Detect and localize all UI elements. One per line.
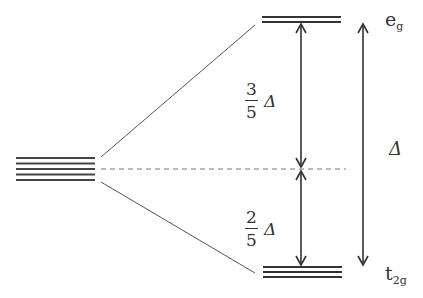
upper-gap-label: 3 5 Δ xyxy=(245,80,276,121)
lower-gap-label: 2 5 Δ xyxy=(245,208,276,249)
splitting-diagram xyxy=(0,0,423,298)
upper-gap-numerator: 3 xyxy=(246,80,257,98)
upper-gap-denominator: 5 xyxy=(246,103,257,121)
t2g-label-main: t xyxy=(385,262,393,284)
lower-gap-symbol: Δ xyxy=(264,219,276,239)
connector-lower xyxy=(101,182,255,273)
t2g-levels xyxy=(263,267,342,277)
eg-label: eg xyxy=(385,8,403,33)
connector-upper xyxy=(101,25,255,157)
upper-gap-symbol: Δ xyxy=(264,91,276,111)
lower-gap-numerator: 2 xyxy=(246,208,257,226)
t2g-label-sub: 2g xyxy=(393,274,407,287)
eg-label-sub: g xyxy=(396,20,403,33)
degenerate-levels xyxy=(16,158,95,180)
eg-levels xyxy=(262,17,341,22)
lower-gap-denominator: 5 xyxy=(246,231,257,249)
total-gap-label: Δ xyxy=(389,138,402,159)
t2g-label: t2g xyxy=(385,262,407,287)
eg-label-main: e xyxy=(385,8,396,30)
